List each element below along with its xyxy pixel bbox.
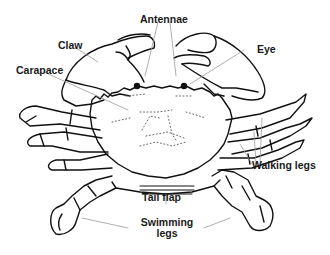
left-walking-legs-drawing xyxy=(20,106,112,170)
label-claw: Claw xyxy=(58,40,83,51)
crab-diagram: Antennae Claw Eye Carapace Walking legs … xyxy=(0,0,330,255)
label-walking-legs: Walking legs xyxy=(252,160,316,171)
label-tail-flap: Tail flap xyxy=(142,192,181,203)
label-swimming-legs-line2: legs xyxy=(132,228,202,239)
right-eye-drawing xyxy=(182,84,187,89)
right-claw-drawing xyxy=(174,33,265,100)
left-swimming-leg-drawing xyxy=(51,176,116,234)
label-eye: Eye xyxy=(257,44,276,55)
label-antennae: Antennae xyxy=(140,14,188,25)
left-eye-drawing xyxy=(135,84,140,89)
label-swimming-legs: Swimming legs xyxy=(132,217,202,239)
label-carapace: Carapace xyxy=(16,65,63,76)
